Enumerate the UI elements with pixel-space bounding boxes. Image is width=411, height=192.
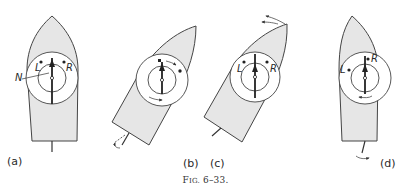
figure-6-33-boats-diagram xyxy=(0,0,411,192)
label-a-left: L xyxy=(35,62,41,73)
rudder xyxy=(122,133,129,145)
yaw-arrow-inner xyxy=(262,22,278,24)
rudder xyxy=(362,141,365,153)
label-c-right: R xyxy=(270,63,277,74)
panel-label-a: (a) xyxy=(7,155,22,168)
dot-left xyxy=(242,60,245,63)
panel-label-d: (d) xyxy=(380,157,396,170)
rudder xyxy=(212,128,221,136)
pivot xyxy=(50,76,53,79)
panel-d-boat xyxy=(339,16,391,159)
panel-label-c: (c) xyxy=(210,157,225,170)
panel-b-boat xyxy=(112,26,196,148)
dot-left xyxy=(158,59,161,62)
caption-number: 6–33. xyxy=(200,175,229,185)
label-a-right: R xyxy=(66,62,73,73)
pivot xyxy=(253,75,256,78)
dot-right xyxy=(265,60,268,63)
dot-right xyxy=(366,57,369,60)
label-a-pointer: N xyxy=(15,72,22,83)
panel-c-boat xyxy=(204,16,287,142)
rudder-swing-arrow xyxy=(115,143,120,148)
figure-caption: FIG. 6–33. xyxy=(0,175,411,185)
yaw-arrow-outer xyxy=(266,16,285,24)
caption-smallcaps: IG. xyxy=(189,177,200,185)
panel-a-boat xyxy=(22,16,78,152)
dot-left xyxy=(347,68,350,71)
label-d-left: L xyxy=(340,64,346,75)
label-d-right: R xyxy=(371,53,378,64)
pivot xyxy=(363,76,366,79)
label-c-left: L xyxy=(237,63,243,74)
rudder-swing-arrow xyxy=(356,156,369,159)
dot-right xyxy=(178,69,181,72)
panel-label-b: (b) xyxy=(183,157,199,170)
pivot xyxy=(160,78,163,81)
